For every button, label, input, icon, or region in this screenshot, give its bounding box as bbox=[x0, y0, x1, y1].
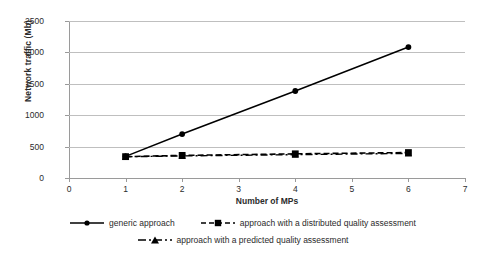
y-tick-label-1000: 1000 bbox=[4, 110, 44, 120]
x-tick-mark-4 bbox=[295, 178, 296, 182]
legend-row-1: generic approach approach with a distrib… bbox=[0, 214, 486, 231]
line-chart-figure: Network traffic (Mb) 2500 2000 1500 1000… bbox=[0, 0, 486, 255]
x-tick-mark-7 bbox=[465, 178, 466, 182]
series-predicted-quality bbox=[122, 150, 412, 160]
data-point bbox=[179, 131, 185, 137]
y-tick-label-500: 500 bbox=[4, 142, 44, 152]
x-tick-label-3: 3 bbox=[236, 184, 241, 194]
y-tick-label-0: 0 bbox=[4, 173, 44, 183]
data-point bbox=[179, 152, 186, 159]
legend-label-predicted-quality: approach with a predicted quality assess… bbox=[177, 235, 349, 245]
data-point bbox=[292, 150, 299, 157]
legend-entry-predicted-quality: approach with a predicted quality assess… bbox=[138, 235, 349, 245]
data-point bbox=[123, 153, 129, 159]
series-plot bbox=[69, 21, 465, 178]
y-tick-label-1500: 1500 bbox=[4, 79, 44, 89]
series-generic-approach bbox=[123, 44, 412, 159]
legend-label-distributed-quality: approach with a distributed quality asse… bbox=[240, 218, 416, 228]
data-point bbox=[292, 88, 298, 94]
y-tick-label-2500: 2500 bbox=[4, 16, 44, 26]
data-point bbox=[405, 149, 412, 156]
x-axis-title: Number of MPs bbox=[69, 196, 465, 206]
legend-label-generic-approach: generic approach bbox=[109, 218, 175, 228]
x-tick-mark-5 bbox=[352, 178, 353, 182]
x-tick-label-2: 2 bbox=[180, 184, 185, 194]
x-tick-mark-3 bbox=[239, 178, 240, 182]
legend-row-2: approach with a predicted quality assess… bbox=[0, 231, 486, 248]
x-tick-label-5: 5 bbox=[349, 184, 354, 194]
x-tick-label-7: 7 bbox=[463, 184, 468, 194]
x-tick-mark-6 bbox=[408, 178, 409, 182]
x-tick-mark-2 bbox=[182, 178, 183, 182]
y-tick-label-2000: 2000 bbox=[4, 47, 44, 57]
square-marker-icon bbox=[201, 218, 235, 228]
axis-baseline-0 bbox=[69, 178, 465, 179]
x-tick-mark-0 bbox=[69, 178, 70, 182]
x-tick-label-6: 6 bbox=[406, 184, 411, 194]
chart-legend: generic approach approach with a distrib… bbox=[0, 214, 486, 248]
x-tick-label-4: 4 bbox=[293, 184, 298, 194]
legend-entry-distributed-quality: approach with a distributed quality asse… bbox=[201, 218, 416, 228]
legend-entry-generic-approach: generic approach bbox=[70, 218, 175, 228]
plot-area: 2500 2000 1500 1000 500 0 0 1 2 3 4 5 6 bbox=[69, 21, 465, 178]
x-tick-mark-1 bbox=[126, 178, 127, 182]
data-point bbox=[406, 44, 412, 50]
x-tick-label-1: 1 bbox=[123, 184, 128, 194]
triangle-marker-icon bbox=[138, 235, 172, 245]
x-tick-label-0: 0 bbox=[67, 184, 72, 194]
circle-marker-icon bbox=[70, 218, 104, 228]
